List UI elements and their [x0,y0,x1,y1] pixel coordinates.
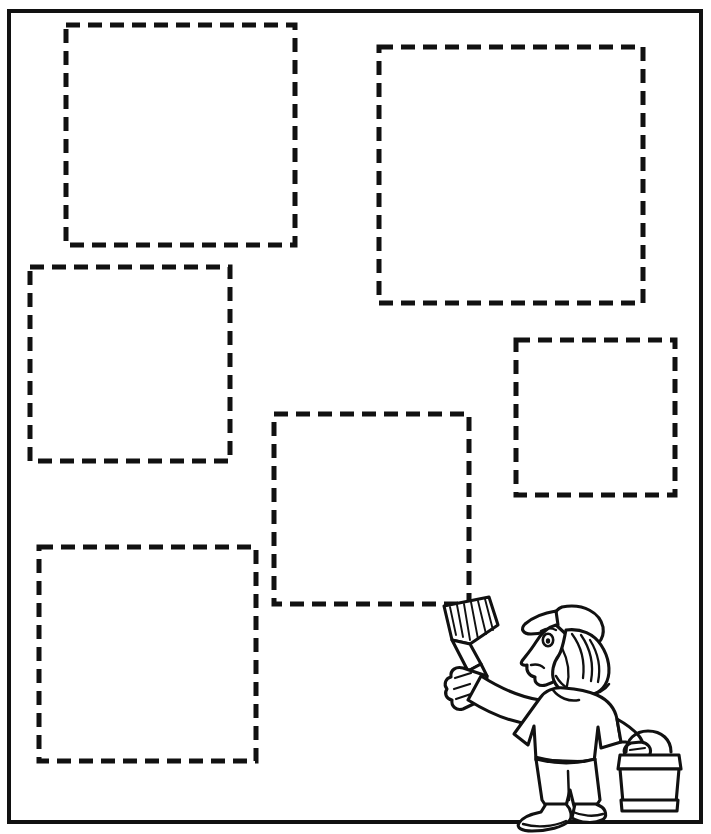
painter-figure [444,597,681,831]
dashed-square-4[interactable] [516,340,675,495]
paint-bucket-icon [618,731,681,811]
dashed-square-1[interactable] [66,25,295,245]
dashed-square-2[interactable] [379,47,643,303]
dashed-square-6[interactable] [39,547,256,761]
dashed-square-3[interactable] [30,267,230,461]
worksheet-canvas [0,0,711,834]
dashed-square-5[interactable] [274,414,469,604]
pants [536,759,600,806]
shoes [518,804,605,831]
worksheet-page: Color each square a different color. [0,0,711,834]
